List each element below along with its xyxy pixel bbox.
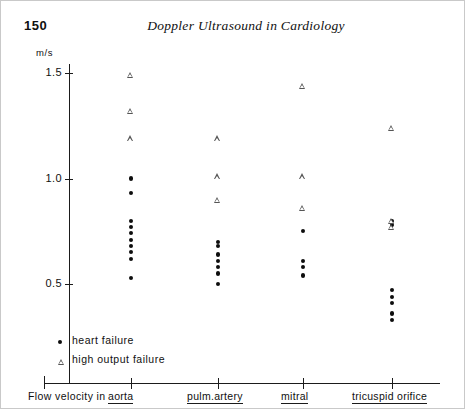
data-point-heart-failure <box>301 273 305 277</box>
x-tick <box>131 378 132 389</box>
data-point-heart-failure <box>216 244 220 248</box>
data-point-high-output-failure <box>299 205 305 211</box>
data-point-heart-failure <box>390 295 394 299</box>
data-point-heart-failure <box>216 259 220 263</box>
y-tick-label: 0.5 <box>26 277 62 289</box>
data-point-heart-failure <box>216 265 220 269</box>
data-point-heart-failure <box>129 244 133 248</box>
y-tick <box>65 73 73 74</box>
y-axis-line <box>69 64 70 384</box>
x-tick <box>303 378 304 389</box>
data-point-high-output-failure <box>299 83 305 89</box>
x-axis-origin-tick <box>44 376 45 389</box>
legend-label: high output failure <box>72 353 165 365</box>
data-point-heart-failure <box>129 176 133 180</box>
data-point-heart-failure <box>216 252 220 256</box>
data-point-heart-failure <box>216 271 220 275</box>
data-point-heart-failure <box>301 259 305 263</box>
data-point-high-output-failure <box>388 224 394 230</box>
data-point-high-output-failure <box>127 135 133 141</box>
category-label-mitral: mitral <box>281 390 308 404</box>
category-label-pulm-artery: pulm.artery <box>187 390 243 404</box>
data-point-heart-failure <box>129 238 133 242</box>
data-point-heart-failure <box>390 318 394 322</box>
x-tick <box>392 378 393 389</box>
data-point-heart-failure <box>390 311 394 315</box>
x-tick <box>218 378 219 389</box>
x-axis-caption: Flow velocity in <box>28 390 106 402</box>
data-point-high-output-failure <box>214 135 220 141</box>
data-point-heart-failure <box>390 288 394 292</box>
data-point-heart-failure <box>129 219 133 223</box>
data-point-heart-failure <box>301 229 305 233</box>
y-tick <box>65 284 73 285</box>
data-point-high-output-failure <box>127 72 133 78</box>
data-point-high-output-failure <box>127 108 133 114</box>
category-label-tricuspid-orifice: tricuspid orifice <box>352 390 427 404</box>
category-label-aorta: aorta <box>108 390 133 404</box>
data-point-high-output-failure <box>388 125 394 131</box>
data-point-high-output-failure <box>214 197 220 203</box>
data-point-heart-failure <box>129 250 133 254</box>
data-point-high-output-failure <box>299 173 305 179</box>
data-point-heart-failure <box>129 257 133 261</box>
data-point-heart-failure <box>129 225 133 229</box>
data-point-heart-failure <box>301 265 305 269</box>
legend-label: heart failure <box>72 334 134 346</box>
x-axis-line <box>44 383 440 384</box>
data-point-heart-failure <box>129 276 133 280</box>
y-tick <box>65 179 73 180</box>
scatter-plot: 1.51.00.5 aortapulm.arterymitraltricuspi… <box>0 0 466 410</box>
data-point-high-output-failure <box>388 218 394 224</box>
data-point-heart-failure <box>129 231 133 235</box>
data-point-high-output-failure <box>214 173 220 179</box>
open-triangle-icon <box>58 359 64 365</box>
data-point-heart-failure <box>390 301 394 305</box>
data-point-heart-failure <box>216 282 220 286</box>
data-point-heart-failure <box>129 191 133 195</box>
y-tick-label: 1.0 <box>26 172 62 184</box>
y-tick-label: 1.5 <box>26 66 62 78</box>
